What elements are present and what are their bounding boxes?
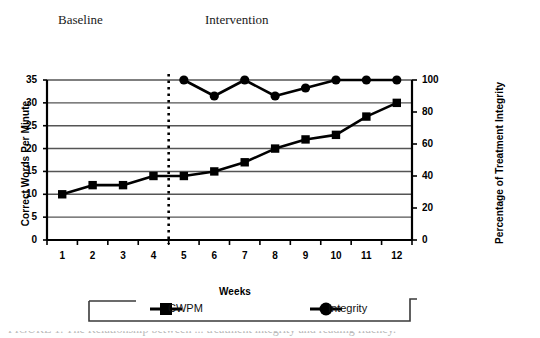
x-tick-9: 9 bbox=[294, 250, 318, 261]
y-tick-left-20: 20 bbox=[15, 143, 37, 154]
x-tick-2: 2 bbox=[81, 250, 105, 261]
plot-area bbox=[0, 0, 540, 338]
y-tick-left-10: 10 bbox=[15, 188, 37, 199]
figure-container: Baseline Intervention Correct Words Per … bbox=[0, 0, 540, 338]
y-tick-right-100: 100 bbox=[422, 74, 444, 85]
y-tick-left-35: 35 bbox=[15, 74, 37, 85]
legend-label-integrity[interactable]: Integrity bbox=[328, 302, 367, 314]
y-tick-right-0: 0 bbox=[422, 234, 444, 245]
x-tick-10: 10 bbox=[324, 250, 348, 261]
data-series bbox=[58, 75, 401, 198]
y-tick-right-20: 20 bbox=[422, 202, 444, 213]
x-tick-5: 5 bbox=[172, 250, 196, 261]
x-tick-7: 7 bbox=[233, 250, 257, 261]
y-tick-left-0: 0 bbox=[15, 234, 37, 245]
y-tick-right-80: 80 bbox=[422, 106, 444, 117]
figure-caption-clipped: FIGURE 1. The Relationship between ... t… bbox=[0, 331, 540, 338]
axis-lines bbox=[47, 80, 412, 240]
y-tick-left-5: 5 bbox=[15, 211, 37, 222]
x-tick-1: 1 bbox=[50, 250, 74, 261]
y-tick-left-30: 30 bbox=[15, 97, 37, 108]
legend-label-cwpm[interactable]: CWPM bbox=[168, 302, 203, 314]
figure-caption-text: FIGURE 1. The Relationship between ... t… bbox=[8, 331, 396, 337]
x-tick-11: 11 bbox=[354, 250, 378, 261]
y-tick-right-60: 60 bbox=[422, 138, 444, 149]
x-tick-6: 6 bbox=[202, 250, 226, 261]
gridlines bbox=[47, 80, 412, 217]
x-tick-3: 3 bbox=[111, 250, 135, 261]
y-tick-left-15: 15 bbox=[15, 165, 37, 176]
x-tick-12: 12 bbox=[385, 250, 409, 261]
x-tick-4: 4 bbox=[141, 250, 165, 261]
y-tick-right-40: 40 bbox=[422, 170, 444, 181]
legend-box bbox=[88, 296, 418, 322]
x-tick-8: 8 bbox=[263, 250, 287, 261]
y-tick-left-25: 25 bbox=[15, 120, 37, 131]
